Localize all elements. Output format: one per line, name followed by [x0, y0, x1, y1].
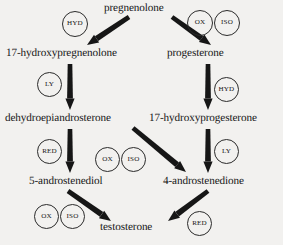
- node-dehydroepiandrosterone: dehydroepiandrosterone: [5, 112, 111, 125]
- enzyme-label: ISO: [221, 19, 233, 26]
- enzyme-iso-dhea-to-4-androstenedione: ISO: [121, 147, 146, 172]
- enzyme-label: OX: [102, 156, 113, 163]
- enzyme-label: OX: [195, 19, 206, 26]
- enzyme-label: HYD: [219, 86, 235, 93]
- arrow-pregnenolone-to-17-hydroxypregnenolone: [87, 15, 130, 45]
- enzyme-label: ISO: [128, 156, 140, 163]
- enzyme-ox-dhea-to-4-androstenedione: OX: [95, 147, 120, 172]
- arrow-17-hydroxypregnenolone-to-dhea: [65, 64, 74, 110]
- arrow-dhea-to-5-androstenediol: [65, 129, 74, 173]
- enzyme-hyd-progesterone-to-17-hydroxyprogesterone: HYD: [214, 77, 239, 102]
- enzyme-iso-pregnenolone-to-progesterone: ISO: [214, 10, 240, 36]
- node-17-hydroxypregnenolone: 17-hydroxypregnenolone: [6, 47, 117, 60]
- node-4-androstenedione: 4-androstenedione: [163, 175, 244, 188]
- enzyme-iso-5-androstenediol-to-testosterone: ISO: [60, 204, 85, 229]
- node-testosterone: testosterone: [100, 221, 152, 234]
- enzyme-label: ISO: [67, 213, 79, 220]
- node-5-androstenediol: 5-androstenediol: [29, 175, 103, 188]
- steroidogenesis-pathway-diagram: pregnenolone 17-hydroxypregnenolone prog…: [0, 0, 283, 245]
- arrow-progesterone-to-17-hydroxyprogesterone: [203, 64, 212, 110]
- arrow-17-hydroxyprogesterone-to-4-androstenedione: [203, 129, 212, 173]
- enzyme-red-4-androstenedione-to-testosterone: RED: [187, 211, 212, 236]
- enzyme-label: RED: [192, 220, 207, 227]
- enzyme-ly-17-hydroxypregnenolone-to-dhea: LY: [37, 72, 62, 97]
- node-pregnenolone: pregnenolone: [104, 2, 164, 15]
- node-progesterone: progesterone: [167, 47, 224, 60]
- enzyme-label: LY: [45, 81, 54, 88]
- enzyme-label: RED: [42, 148, 57, 155]
- enzyme-hyd-pregnenolone-to-17-hydroxypregnenolone: HYD: [62, 11, 88, 37]
- node-17-hydroxyprogesterone: 17-hydroxyprogesterone: [149, 112, 257, 125]
- enzyme-label: LY: [222, 148, 231, 155]
- enzyme-red-dhea-to-5-androstenediol: RED: [37, 139, 62, 164]
- enzyme-label: HYD: [67, 20, 83, 27]
- enzyme-ox-5-androstenediol-to-testosterone: OX: [34, 204, 59, 229]
- enzyme-label: OX: [41, 213, 52, 220]
- enzyme-ly-17-hydroxyprogesterone-to-4-androstenedione: LY: [214, 139, 239, 164]
- enzyme-ox-pregnenolone-to-progesterone: OX: [187, 10, 213, 36]
